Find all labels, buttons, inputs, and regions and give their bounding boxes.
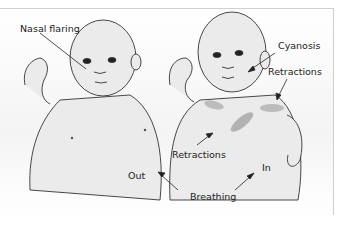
label-out: Out [128, 171, 145, 181]
label-retractions-upper: Retractions [268, 67, 322, 77]
label-breathing: Breathing [190, 192, 236, 202]
label-cyanosis: Cyanosis [278, 41, 320, 51]
label-retractions-lower: Retractions [172, 150, 226, 160]
label-nasal-flaring: Nasal flaring [20, 24, 80, 34]
label-in: In [262, 163, 271, 173]
